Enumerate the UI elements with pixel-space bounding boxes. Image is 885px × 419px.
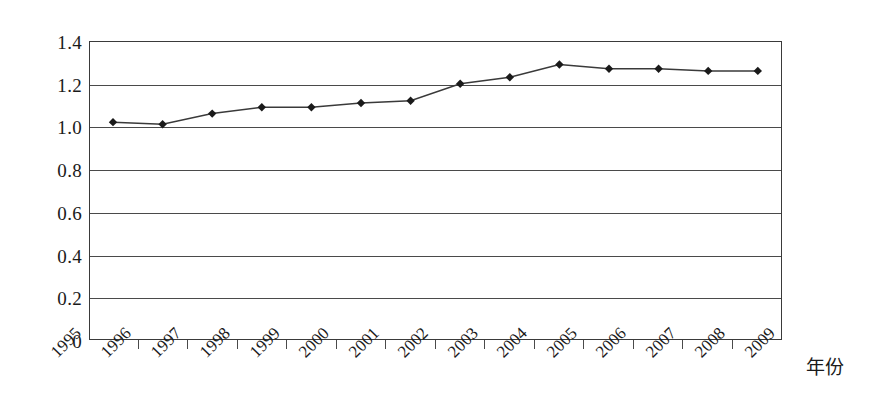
x-tick [138, 340, 139, 349]
gridline-1.0 [90, 127, 781, 128]
x-tick [732, 340, 733, 349]
x-tick [682, 340, 683, 349]
gridline-0.6 [90, 213, 781, 214]
y-tick-label: 0.2 [22, 288, 82, 310]
x-tick [534, 340, 535, 349]
gridline-0.2 [90, 298, 781, 299]
gridline-1.2 [90, 85, 781, 86]
x-tick [336, 340, 337, 349]
x-tick [484, 340, 485, 349]
x-tick [237, 340, 238, 349]
x-tick [583, 340, 584, 349]
x-tick [633, 340, 634, 349]
y-tick-label: 0.4 [22, 246, 82, 268]
x-tick [187, 340, 188, 349]
x-tick [435, 340, 436, 349]
x-axis-title: 年份 [806, 352, 844, 379]
x-tick [286, 340, 287, 349]
plot-area [89, 41, 782, 340]
y-tick-label: 1.2 [22, 75, 82, 97]
gridline-0.8 [90, 170, 781, 171]
y-tick-label: 1.0 [22, 117, 82, 139]
x-tick-label-1995: 1995 [47, 323, 86, 362]
chart-figure: 1.4 1.2 1.0 0.8 0.6 0.4 0.2 0 1995 1996 … [0, 0, 885, 419]
y-tick-label: 0.8 [22, 160, 82, 182]
y-tick-label: 0.6 [22, 203, 82, 225]
x-tick [385, 340, 386, 349]
gridline-0.4 [90, 256, 781, 257]
y-tick-label: 1.4 [22, 32, 82, 54]
